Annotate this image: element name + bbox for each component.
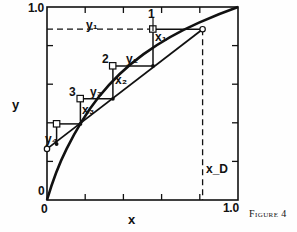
x1-label: x₁ (155, 31, 167, 43)
distillate-point-marker (200, 27, 205, 32)
y-axis-min-tick-label: 0 (38, 185, 44, 197)
y4-label: y₄ (45, 133, 57, 145)
x2-label: x₂ (115, 74, 127, 86)
y-axis-label: y (12, 98, 19, 111)
x-axis-max-tick-label: 1.0 (223, 202, 239, 214)
y1-label: y₁ (86, 19, 98, 31)
stage-2-label: 2 (102, 53, 109, 65)
x-axis-label: x (128, 213, 135, 226)
xD-label: x_D (206, 163, 228, 175)
y-axis-max-tick-label: 1.0 (28, 2, 44, 14)
reference-dashed-lines (47, 29, 203, 200)
x3-label: x₃ (82, 104, 94, 116)
x-axis-min-tick-label: 0 (41, 203, 47, 215)
figure-container: 1.0 0 0 1.0 y x 1 2 3 x₁ x₂ x₃ y₁ y₂ y₃ … (0, 0, 297, 232)
y2-label: y₂ (126, 53, 138, 65)
stage-3-label: 3 (69, 86, 76, 98)
y3-label: y₃ (90, 86, 102, 98)
operating-line-intercept-marker (44, 146, 49, 151)
mccabe-thiele-plot (0, 0, 297, 232)
stage-1-label: 1 (148, 8, 155, 20)
figure-caption: Figure 4 (249, 208, 287, 219)
